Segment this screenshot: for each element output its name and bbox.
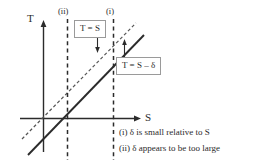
y-axis-label: T [27,13,34,24]
figure-canvas: T S (ii) (i) T = S T = S – δ (i) δ is sm… [0,0,256,164]
diagram-graphic [0,0,256,164]
x-axis-label: S [145,112,151,123]
callout-offset-line: T = S – δ [116,57,161,75]
offset-line-solid [28,35,144,155]
identity-line-dashed [22,23,136,139]
marker-label-i: (i) [106,7,114,16]
caption-line-two: (ii) δ appears to be too large [119,144,220,153]
caption-line-one: (i) δ is small relative to S [119,128,210,137]
y-axis-arrowhead [41,20,47,27]
x-axis-arrowhead [134,116,141,122]
x-axis [20,116,141,122]
y-axis [41,20,47,152]
offset-pointer-head [122,39,127,45]
marker-label-ii: (ii) [58,7,68,16]
callout-identity-line: T = S [74,20,106,38]
identity-pointer-head [95,47,100,53]
